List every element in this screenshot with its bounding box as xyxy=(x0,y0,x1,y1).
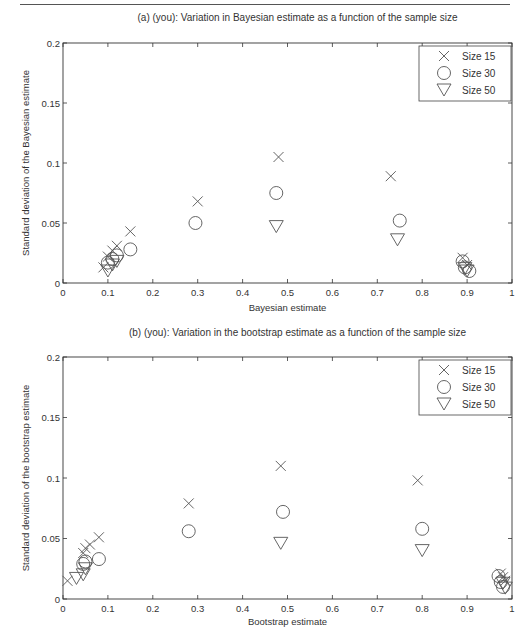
data-point xyxy=(125,226,135,236)
x-tick-label: 0.3 xyxy=(191,603,204,614)
x-tick-label: 0.4 xyxy=(236,287,249,298)
y-tick-label: 0 xyxy=(55,278,60,289)
data-point xyxy=(85,540,95,550)
data-point xyxy=(276,461,286,471)
data-point xyxy=(415,545,429,557)
series-size-50 xyxy=(69,537,512,594)
data-point xyxy=(79,555,92,568)
chart-b: (b) (you): Variation in the bootstrap es… xyxy=(20,327,515,627)
y-tick-label: 0.05 xyxy=(42,218,61,229)
y-tick-label: 0 xyxy=(55,594,60,605)
data-point xyxy=(393,214,406,227)
legend: Size 15Size 30Size 50 xyxy=(419,46,511,101)
legend-entry-label: Size 50 xyxy=(462,85,496,96)
x-tick-label: 0.7 xyxy=(371,603,384,614)
x-tick-label: 0.3 xyxy=(191,287,204,298)
y-axis-label: Standard deviation of the bootstrap esti… xyxy=(20,385,31,571)
legend-entry-label: Size 30 xyxy=(462,382,496,393)
x-tick-label: 0.9 xyxy=(460,603,473,614)
data-point xyxy=(274,152,284,162)
x-tick-label: 1 xyxy=(509,603,514,614)
data-point xyxy=(270,187,283,200)
legend-entry-label: Size 30 xyxy=(462,68,496,79)
x-tick-label: 0 xyxy=(60,603,65,614)
data-point xyxy=(391,234,405,246)
charts-canvas: (a) (you): Variation in Bayesian estimat… xyxy=(0,0,530,631)
series-size-30 xyxy=(101,187,475,278)
y-tick-label: 0.2 xyxy=(47,38,60,49)
data-point xyxy=(80,543,90,553)
series-size-15 xyxy=(98,152,472,272)
data-point xyxy=(92,553,105,566)
y-tick-label: 0.15 xyxy=(42,412,61,423)
x-axis-label: Bayesian estimate xyxy=(249,302,327,313)
y-tick-label: 0.15 xyxy=(42,98,61,109)
data-point xyxy=(277,505,290,518)
y-tick-label: 0.1 xyxy=(47,473,60,484)
x-tick-label: 0.6 xyxy=(326,603,339,614)
x-tick-label: 0.5 xyxy=(281,603,294,614)
series-size-30 xyxy=(77,505,510,593)
x-tick-label: 0.4 xyxy=(236,603,249,614)
y-axis-label: Standard deviation of the Bayesian estim… xyxy=(20,70,31,256)
x-tick-label: 0.9 xyxy=(460,287,473,298)
x-tick-label: 0.8 xyxy=(416,287,429,298)
x-tick-label: 0.1 xyxy=(101,287,114,298)
data-point xyxy=(184,498,194,508)
x-tick-label: 0 xyxy=(60,287,65,298)
legend-entry-label: Size 15 xyxy=(462,365,496,376)
x-tick-label: 0.8 xyxy=(416,603,429,614)
data-point xyxy=(189,217,202,230)
legend-entry-label: Size 15 xyxy=(462,51,496,62)
y-tick-label: 0.05 xyxy=(42,533,61,544)
data-point xyxy=(124,243,137,256)
x-tick-label: 0.5 xyxy=(281,287,294,298)
chart-title: (b) (you): Variation in the bootstrap es… xyxy=(129,327,467,338)
x-tick-label: 0.2 xyxy=(146,287,159,298)
series-size-15 xyxy=(62,461,510,586)
chart-title: (a) (you): Variation in Bayesian estimat… xyxy=(138,12,458,23)
y-tick-label: 0.2 xyxy=(47,352,60,363)
data-point xyxy=(416,522,429,535)
data-point xyxy=(182,525,195,538)
x-tick-label: 0.2 xyxy=(146,603,159,614)
y-tick-label: 0.1 xyxy=(47,158,60,169)
chart-a: (a) (you): Variation in Bayesian estimat… xyxy=(20,12,515,313)
x-tick-label: 0.1 xyxy=(101,603,114,614)
data-point xyxy=(193,196,203,206)
data-point xyxy=(386,171,396,181)
data-point xyxy=(413,475,423,485)
data-point xyxy=(274,537,288,549)
x-tick-label: 1 xyxy=(509,287,514,298)
series-size-50 xyxy=(101,221,474,277)
x-axis-label: Bootstrap estimate xyxy=(248,616,327,627)
legend-entry-label: Size 50 xyxy=(462,399,496,410)
legend: Size 15Size 30Size 50 xyxy=(419,360,511,415)
data-point xyxy=(62,576,72,586)
x-tick-label: 0.7 xyxy=(371,287,384,298)
data-point xyxy=(269,221,283,233)
x-tick-label: 0.6 xyxy=(326,287,339,298)
data-point xyxy=(94,532,104,542)
